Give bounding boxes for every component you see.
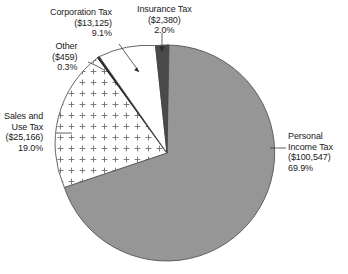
slice-label-corporation-tax-line3: 9.1% <box>50 28 112 39</box>
slice-label-corporation-tax-line2: ($13,125) <box>50 18 112 29</box>
slice-label-other-line3: 0.3% <box>52 62 77 73</box>
slice-label-insurance-tax-line2: ($2,380) <box>137 15 192 26</box>
slice-label-other-line1: Other <box>52 41 77 52</box>
slice-label-personal-income-tax-line3: ($100,547) <box>288 152 333 163</box>
slice-label-sales-and-use-tax-line2: Use Tax <box>4 122 43 133</box>
slice-label-corporation-tax: Corporation Tax ($13,125) 9.1% <box>50 7 112 39</box>
slice-label-personal-income-tax: Personal Income Tax ($100,547) 69.9% <box>288 131 333 173</box>
pie-chart-figure: Corporation Tax ($13,125) 9.1% Insurance… <box>0 0 348 274</box>
slice-label-insurance-tax-line3: 2.0% <box>137 25 192 36</box>
slice-label-personal-income-tax-line4: 69.9% <box>288 163 333 174</box>
slice-label-insurance-tax: Insurance Tax ($2,380) 2.0% <box>137 4 192 36</box>
slice-label-corporation-tax-line1: Corporation Tax <box>50 7 112 18</box>
slice-label-personal-income-tax-line1: Personal <box>288 131 333 142</box>
slice-label-personal-income-tax-line2: Income Tax <box>288 142 333 153</box>
slice-label-other: Other ($459) 0.3% <box>52 41 77 73</box>
slice-label-other-line2: ($459) <box>52 52 77 63</box>
slice-label-sales-and-use-tax-line1: Sales and <box>4 111 43 122</box>
slice-label-sales-and-use-tax-line3: ($25,166) <box>4 132 43 143</box>
slice-label-insurance-tax-line1: Insurance Tax <box>137 4 192 15</box>
slice-label-sales-and-use-tax-line4: 19.0% <box>4 143 43 154</box>
slice-label-sales-and-use-tax: Sales and Use Tax ($25,166) 19.0% <box>4 111 43 153</box>
